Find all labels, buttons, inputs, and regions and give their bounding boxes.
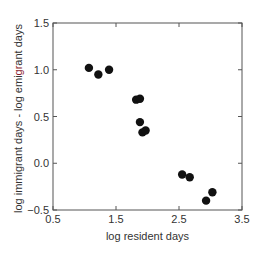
data-point (136, 95, 144, 103)
y-tick-label: 0.5 (34, 111, 49, 123)
data-point (202, 196, 210, 204)
data-point (186, 173, 194, 181)
x-tick-label: 2.5 (171, 213, 186, 225)
y-tick-label: 0.0 (34, 157, 49, 169)
y-axis-label-part-1: log immigrant days - log emi (12, 75, 24, 213)
data-point (94, 70, 102, 78)
plot-frame (53, 23, 242, 210)
x-axis-ticks: 0.51.52.53.5 (45, 23, 249, 225)
y-tick-label: 1.0 (34, 64, 49, 76)
y-tick-label: 1.5 (34, 17, 49, 29)
y-axis-label-part-3: ant days (12, 24, 24, 66)
data-point (208, 188, 216, 196)
y-axis-label-part-2: gr (12, 65, 24, 75)
data-point (178, 170, 186, 178)
data-point (105, 66, 113, 74)
x-tick-label: 3.5 (234, 213, 249, 225)
data-point (136, 118, 144, 126)
data-point (141, 126, 149, 134)
y-tick-label: −0.5 (27, 204, 49, 216)
y-axis-label: log immigrant days - log emigrant days (12, 24, 24, 213)
data-points (85, 64, 217, 205)
x-axis-label: log resident days (106, 230, 190, 242)
y-axis-ticks: −0.50.00.51.01.5 (27, 17, 242, 216)
scatter-chart: 0.51.52.53.5 −0.50.00.51.01.5 log reside… (0, 0, 264, 253)
x-tick-label: 1.5 (108, 213, 123, 225)
data-point (85, 64, 93, 72)
